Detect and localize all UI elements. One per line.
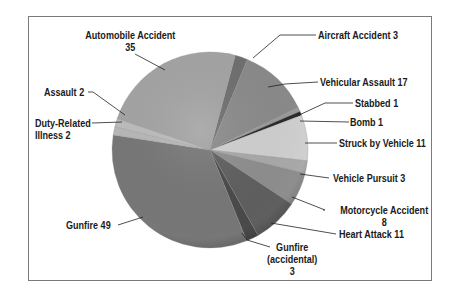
label-value: 35	[85, 41, 175, 53]
label-text: Gunfire	[267, 241, 317, 253]
pie-shading	[112, 52, 308, 248]
label-aircraft-accident: Aircraft Accident 3	[318, 29, 398, 41]
label-text: Automobile Accident	[85, 29, 175, 41]
label-bomb: Bomb 1	[350, 116, 383, 128]
label-struck-by-vehicle: Struck by Vehicle 11	[339, 137, 426, 149]
label-text: Duty-Related	[35, 117, 91, 129]
label-duty-related-illness: Duty-Related Illness 2	[35, 117, 91, 141]
label-heart-attack: Heart Attack 11	[339, 228, 404, 240]
label-value: 8	[340, 216, 428, 228]
label-value: 3	[267, 265, 317, 277]
label-motorcycle-accident: Motorcycle Accident 8	[340, 204, 428, 228]
label-gunfire: Gunfire 49	[66, 219, 111, 231]
label-value: Illness 2	[35, 129, 91, 141]
label-automobile-accident: Automobile Accident 35	[85, 29, 175, 53]
label-gunfire-accidental: Gunfire (accidental) 3	[267, 241, 317, 277]
label-vehicular-assault: Vehicular Assault 17	[320, 76, 408, 88]
label-vehicle-pursuit: Vehicle Pursuit 3	[333, 172, 405, 184]
label-text-2: (accidental)	[267, 253, 317, 265]
label-stabbed: Stabbed 1	[355, 97, 398, 109]
label-assault: Assault 2	[44, 86, 84, 98]
label-text: Motorcycle Accident	[340, 204, 428, 216]
